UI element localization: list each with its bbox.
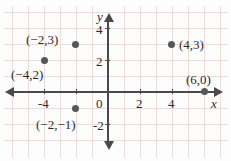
x-axis-arrow-left-icon (5, 87, 14, 97)
y-tick-label-4: 4 (96, 23, 103, 36)
x-tick-mark (140, 89, 141, 94)
y-tick-mark (105, 124, 110, 125)
y-tick-mark (105, 28, 110, 29)
x-axis-label: x (211, 97, 217, 110)
gridline-horizontal (4, 60, 228, 61)
data-point-marker[interactable] (201, 88, 208, 95)
data-point-label: (6,0) (186, 73, 211, 86)
x-tick-label-4: 4 (168, 97, 175, 110)
data-point-label: (−4,2) (11, 68, 43, 81)
y-tick-mark (105, 60, 110, 61)
gridline-horizontal (4, 140, 228, 141)
data-point-label: (4,3) (179, 38, 204, 51)
coordinate-plane-figure: -4 0 2 4 4 2 -2 x y (−2,3) (−4,2) (4,3) … (0, 0, 231, 161)
data-point-marker[interactable] (72, 41, 79, 48)
y-axis-arrow-down-icon (104, 141, 114, 150)
x-tick-mark (44, 89, 45, 94)
data-point-marker[interactable] (72, 105, 79, 112)
data-point-marker[interactable] (41, 57, 48, 64)
x-tick-label-0: 0 (96, 97, 103, 110)
data-point-marker[interactable] (168, 41, 175, 48)
gridline-horizontal (4, 28, 228, 29)
y-tick-label-2: 2 (96, 55, 103, 68)
gridline-horizontal (4, 12, 228, 13)
data-point-label: (−2,3) (26, 33, 58, 46)
y-tick-label-minus-2: -2 (93, 119, 104, 132)
y-axis-arrow-up-icon (104, 13, 114, 22)
data-point-label: (−2,−1) (36, 118, 76, 131)
x-tick-mark (76, 89, 77, 94)
x-tick-mark (172, 89, 173, 94)
x-tick-label-2: 2 (136, 97, 143, 110)
x-tick-label-minus-4: -4 (38, 97, 49, 110)
y-axis-label: y (97, 10, 103, 23)
